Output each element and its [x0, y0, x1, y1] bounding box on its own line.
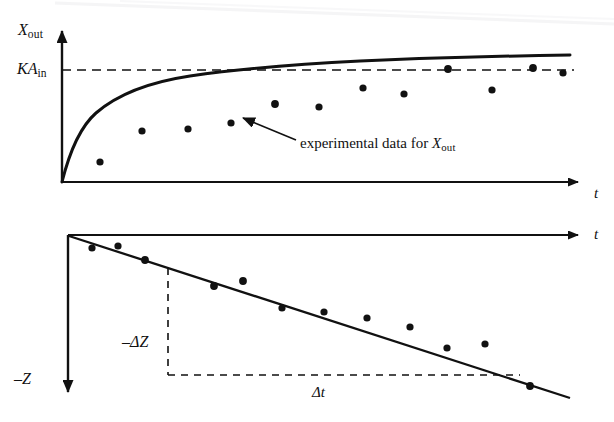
data-point [210, 282, 218, 290]
data-point [278, 304, 285, 311]
y-axis-label-top-subscript: out [28, 28, 43, 40]
asymptote-label-symbol: KA [17, 60, 37, 77]
figure-canvas [0, 0, 614, 422]
annotation-symbol: X [432, 135, 441, 151]
data-point [141, 256, 149, 264]
data-point [363, 314, 370, 321]
data-point [315, 103, 322, 110]
bottom-plot [68, 235, 578, 398]
x-axis-label-bottom: t [594, 227, 598, 242]
annotation-symbol-subscript: out [441, 141, 455, 153]
annotation-text: experimental data for [300, 135, 432, 151]
delta-z-label: –ΔZ [122, 334, 148, 350]
delta-t-label: Δt [312, 385, 325, 400]
data-point [481, 340, 488, 347]
asymptote-label-subscript: in [37, 67, 46, 79]
data-point [184, 125, 191, 132]
data-point [239, 277, 247, 285]
data-point [88, 244, 95, 251]
x-axis-label-top: t [594, 186, 598, 201]
data-point [559, 69, 566, 76]
data-point [406, 323, 413, 330]
y-axis-label-top: Xout [18, 22, 43, 41]
scan-artifact [55, 1, 614, 24]
data-point [359, 84, 366, 91]
data-point [526, 382, 534, 390]
data-point [96, 158, 103, 165]
y-axis-label-top-symbol: X [18, 21, 28, 38]
data-point [529, 64, 537, 72]
data-point [488, 86, 495, 93]
figure-container: Xout KAin t experimental data for Xout t… [0, 0, 614, 422]
data-point [320, 308, 327, 315]
response-curve [62, 55, 570, 182]
data-point [271, 100, 279, 108]
experimental-data-annotation: experimental data for Xout [300, 136, 456, 153]
data-point [400, 90, 407, 97]
data-point [138, 127, 145, 134]
annotation-leader-line [243, 118, 296, 140]
top-plot [62, 31, 578, 182]
asymptote-label: KAin [17, 61, 47, 80]
data-point [114, 242, 121, 249]
y-axis-label-bottom: –Z [14, 371, 31, 387]
data-point [444, 65, 452, 73]
data-point [227, 119, 234, 126]
data-point [443, 344, 450, 351]
